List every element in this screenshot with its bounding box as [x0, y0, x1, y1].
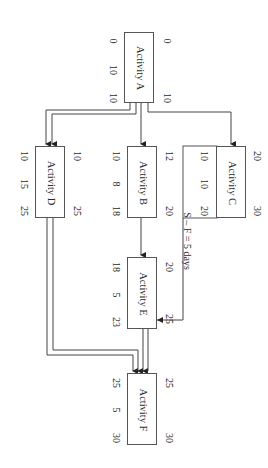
early-start: 10 [72, 149, 82, 163]
precedence-diagram: Activity A 0 10 0 10 10 Activity D 10 25… [0, 0, 268, 468]
early-start: 20 [252, 149, 262, 163]
duration: 10 [199, 177, 209, 191]
link-a-c [148, 102, 231, 144]
early-finish: 10 [162, 91, 172, 105]
late-start: 0 [108, 34, 118, 48]
late-start: 10 [199, 149, 209, 163]
early-finish: 20 [164, 204, 174, 218]
node-label: Activity F [138, 375, 148, 445]
node-activity-d: Activity D [35, 146, 65, 218]
duration: 15 [19, 177, 29, 191]
early-start: 20 [164, 260, 174, 274]
late-start: 10 [111, 149, 121, 163]
early-finish: 25 [164, 312, 174, 326]
node-activity-e: Activity E [127, 257, 157, 329]
early-start: 0 [162, 34, 172, 48]
early-start: 12 [164, 149, 174, 163]
early-finish: 30 [252, 204, 262, 218]
late-finish: 30 [111, 431, 121, 445]
late-start: 25 [111, 376, 121, 390]
early-finish: 25 [72, 204, 82, 218]
link-a-d-2 [52, 102, 136, 144]
node-activity-a: Activity A [124, 32, 154, 103]
node-activity-f: Activity F [127, 373, 157, 445]
node-activity-b: Activity B [127, 146, 157, 218]
late-finish: 23 [111, 315, 121, 329]
link-a-d-1 [46, 102, 130, 144]
duration: 5 [111, 288, 121, 302]
duration: 5 [111, 403, 121, 417]
node-label: Activity B [138, 148, 148, 218]
lag-annotation: S – F = 5 days [182, 201, 192, 281]
node-label: Activity A [135, 33, 145, 103]
late-finish: 20 [199, 204, 209, 218]
link-d-f-2 [53, 218, 138, 371]
node-label: Activity D [46, 148, 56, 218]
duration: 10 [108, 63, 118, 77]
node-label: Activity E [138, 259, 148, 329]
late-start: 10 [19, 149, 29, 163]
early-start: 25 [164, 376, 174, 390]
node-activity-c: Activity C [216, 146, 246, 218]
late-start: 18 [111, 260, 121, 274]
late-finish: 18 [111, 204, 121, 218]
early-finish: 30 [164, 431, 174, 445]
duration: 8 [111, 177, 121, 191]
late-finish: 10 [108, 91, 118, 105]
late-finish: 25 [19, 204, 29, 218]
node-label: Activity C [227, 148, 237, 218]
